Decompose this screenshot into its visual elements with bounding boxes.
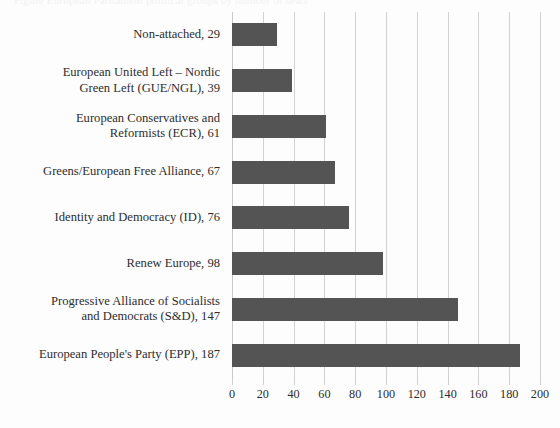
x-tick-mark xyxy=(232,378,233,385)
gridline-160 xyxy=(478,12,479,378)
x-tick-label: 100 xyxy=(377,387,395,401)
bar xyxy=(232,115,326,138)
x-axis: 020406080100120140160180200 xyxy=(232,378,540,408)
x-tick-mark xyxy=(324,378,325,385)
gridline-180 xyxy=(509,12,510,378)
x-tick-label: 0 xyxy=(229,387,235,401)
category-label: Identity and Democracy (ID), 76 xyxy=(0,210,224,226)
x-tick-label: 160 xyxy=(469,387,487,401)
gridline-80 xyxy=(355,12,356,378)
x-tick-mark xyxy=(448,378,449,385)
bar xyxy=(232,252,383,275)
gridline-0 xyxy=(232,12,233,378)
x-tick-label: 200 xyxy=(531,387,549,401)
bar xyxy=(232,206,349,229)
bar xyxy=(232,298,458,321)
bar xyxy=(232,69,292,92)
gridline-100 xyxy=(386,12,387,378)
category-label: Progressive Alliance of Socialists and D… xyxy=(0,294,224,325)
bar xyxy=(232,23,277,46)
category-label: Non-attached, 29 xyxy=(0,27,224,43)
x-tick-mark xyxy=(478,378,479,385)
x-tick-label: 60 xyxy=(318,387,330,401)
bar xyxy=(232,161,335,184)
category-label: Renew Europe, 98 xyxy=(0,256,224,272)
x-tick-label: 140 xyxy=(438,387,456,401)
x-tick-mark xyxy=(263,378,264,385)
x-tick-mark xyxy=(540,378,541,385)
x-tick-mark xyxy=(386,378,387,385)
category-axis: Non-attached, 29European United Left – N… xyxy=(0,12,224,378)
x-tick-mark xyxy=(509,378,510,385)
category-label: Greens/European Free Alliance, 67 xyxy=(0,164,224,180)
x-tick-mark xyxy=(294,378,295,385)
x-tick-label: 40 xyxy=(288,387,300,401)
plot-area xyxy=(232,12,540,378)
x-tick-mark xyxy=(355,378,356,385)
category-label: European United Left – Nordic Green Left… xyxy=(0,65,224,96)
gridline-140 xyxy=(448,12,449,378)
x-tick-label: 120 xyxy=(408,387,426,401)
gridline-40 xyxy=(294,12,295,378)
horizontal-bar-chart: Non-attached, 29European United Left – N… xyxy=(0,0,560,428)
gridline-120 xyxy=(417,12,418,378)
x-tick-label: 80 xyxy=(349,387,361,401)
x-tick-label: 20 xyxy=(257,387,269,401)
category-label: European People's Party (EPP), 187 xyxy=(0,347,224,363)
gridline-20 xyxy=(263,12,264,378)
gridline-60 xyxy=(324,12,325,378)
category-label: European Conservatives and Reformists (E… xyxy=(0,111,224,142)
bar xyxy=(232,344,520,367)
x-tick-mark xyxy=(417,378,418,385)
x-tick-label: 180 xyxy=(500,387,518,401)
gridline-200 xyxy=(540,12,541,378)
